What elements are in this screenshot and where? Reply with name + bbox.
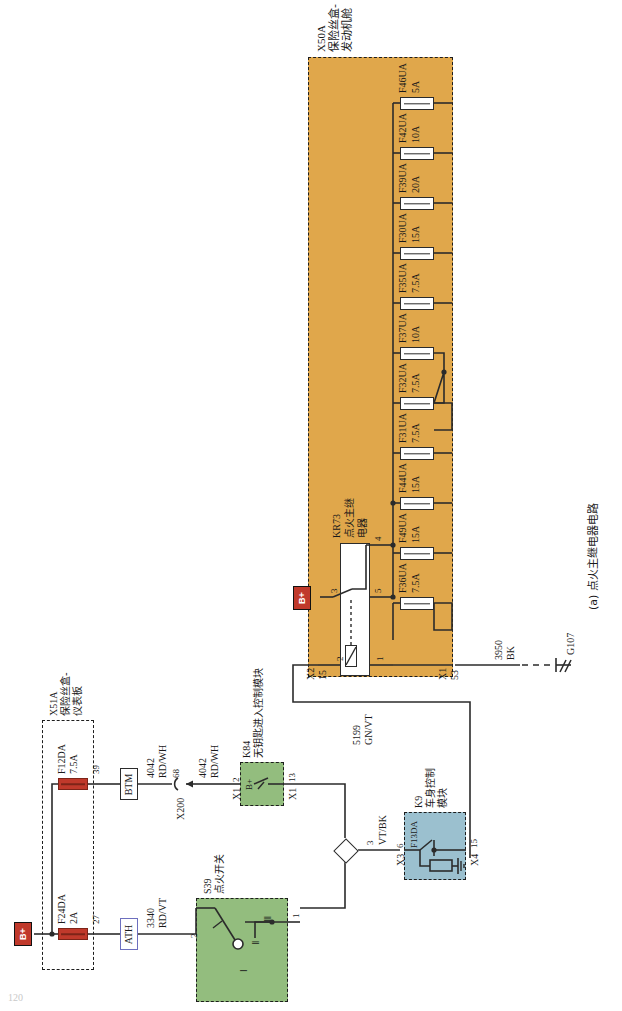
wiring-diagram-canvas: X50A 保险丝盒- 发动机舱 F46UA 5A F42UA 10A F39UA… xyxy=(0,0,622,1011)
wire-3340-path xyxy=(0,0,622,1011)
wire-3340-number: 3340 xyxy=(146,908,156,928)
page-number: 120 xyxy=(8,992,23,1003)
figure-caption: (a) 点火主继电器电路 xyxy=(588,503,599,610)
wire-3340-color: RD/VT xyxy=(158,898,168,928)
